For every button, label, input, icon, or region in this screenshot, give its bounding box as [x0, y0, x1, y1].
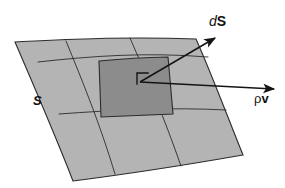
surface-label-S: S [33, 94, 42, 107]
dS-label-S: S [217, 13, 226, 29]
figure-container: dS ρv S [0, 0, 285, 188]
rho-v-label: ρv [254, 92, 269, 105]
patch-outline [99, 57, 173, 117]
dS-label: dS [209, 14, 226, 28]
rho-v-label-v: v [261, 91, 268, 106]
surface-flux-diagram [0, 0, 285, 188]
differential-surface-patch [99, 57, 173, 117]
dS-label-d: d [209, 13, 217, 29]
